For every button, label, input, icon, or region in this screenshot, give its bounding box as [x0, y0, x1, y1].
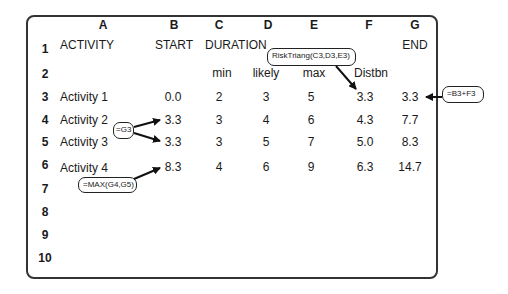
- arrow-max-to-b6: [134, 168, 160, 179]
- callout-arrows: [0, 0, 508, 294]
- arrow-risk-to-f3: [336, 66, 356, 89]
- arrow-g3-to-b4: [134, 120, 160, 127]
- arrow-g3-to-b5: [134, 133, 160, 141]
